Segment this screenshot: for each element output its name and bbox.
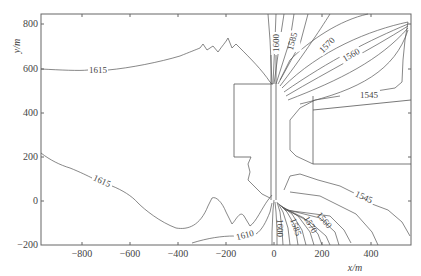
contour-chart: 800 600 400 200 0 −200 y/m −800 −600 −40… bbox=[0, 0, 421, 276]
label-1615-upper: 1615 bbox=[89, 65, 108, 75]
x-tick-400: 400 bbox=[364, 248, 379, 259]
y-tick-neg200: −200 bbox=[17, 239, 38, 250]
label-1600-upper: 1600 bbox=[271, 34, 281, 53]
y-tick-600: 600 bbox=[23, 63, 38, 74]
x-tick-neg600: −600 bbox=[120, 248, 141, 259]
label-1600-lower: 1600 bbox=[275, 219, 285, 238]
x-tick-neg800: −800 bbox=[72, 248, 93, 259]
x-tick-0: 0 bbox=[272, 248, 277, 259]
y-tick-400: 400 bbox=[23, 107, 38, 118]
y-tick-200: 200 bbox=[23, 151, 38, 162]
x-tick-200: 200 bbox=[315, 248, 330, 259]
x-axis-label: x/m bbox=[347, 262, 362, 273]
label-1545-upper: 1545 bbox=[360, 90, 379, 100]
label-1585-lower: 1585 bbox=[288, 217, 304, 238]
x-tick-neg200: −200 bbox=[216, 248, 237, 259]
x-tick-neg400: −400 bbox=[168, 248, 189, 259]
y-tick-800: 800 bbox=[23, 18, 38, 29]
y-tick-0: 0 bbox=[33, 195, 38, 206]
y-axis-label: y/m bbox=[11, 39, 22, 54]
structures bbox=[234, 55, 411, 200]
label-1610: 1610 bbox=[235, 228, 255, 242]
x-axis: −800 −600 −400 −200 0 200 400 x/m bbox=[72, 14, 379, 273]
